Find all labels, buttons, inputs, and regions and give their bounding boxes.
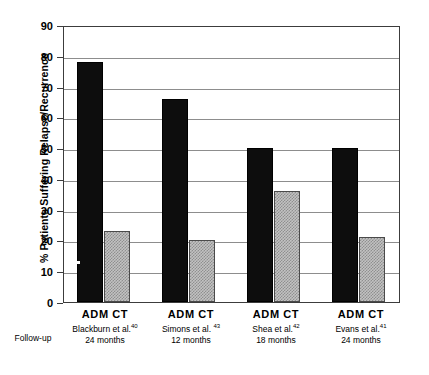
bar-artifact-nick [77, 261, 80, 264]
y-tick-label-50: 50 [0, 143, 53, 155]
bar-ct-evans[interactable] [359, 237, 385, 302]
x-group-study-ref-simons: 43 [213, 323, 220, 329]
x-group-study-ref-evans: 41 [380, 323, 387, 329]
bar-adm-shea[interactable] [247, 148, 273, 302]
bar-adm-evans[interactable] [332, 148, 358, 302]
y-tick-label-10: 10 [0, 266, 53, 278]
y-tick-mark-0 [57, 303, 63, 304]
x-group-study-name-simons: Simons et al. [162, 324, 214, 334]
y-tick-label-80: 80 [0, 51, 53, 63]
plot-inner [64, 27, 399, 302]
x-group-study-name-evans: Evans et al. [335, 324, 379, 334]
y-tick-label-60: 60 [0, 112, 53, 124]
bar-adm-simons[interactable] [162, 99, 188, 302]
x-group-study-name-shea: Shea et al. [252, 324, 293, 334]
bar-ct-simons[interactable] [189, 240, 215, 302]
x-group-study-ref-shea: 42 [293, 323, 300, 329]
x-group-study-name-blackburn: Blackburn et al. [72, 324, 131, 334]
x-group-series-labels-evans: ADM CT [306, 308, 416, 320]
y-tick-label-90: 90 [0, 20, 53, 32]
bar-ct-blackburn[interactable] [104, 231, 130, 302]
y-tick-label-70: 70 [0, 82, 53, 94]
y-tick-label-0: 0 [0, 297, 53, 309]
bar-chart-figure: % Patients Suffering Relapse/Recurrence … [0, 0, 429, 375]
y-tick-label-40: 40 [0, 174, 53, 186]
bar-ct-shea[interactable] [274, 191, 300, 302]
gridline-70 [64, 89, 399, 90]
x-group-study-evans: Evans et al.41 [306, 323, 416, 334]
gridline-60 [64, 119, 399, 120]
plot-area [63, 26, 400, 303]
y-tick-label-30: 30 [0, 205, 53, 217]
x-group-evans: ADM CT Evans et al.41 24 months [306, 308, 416, 345]
y-tick-label-20: 20 [0, 235, 53, 247]
x-group-period-evans: 24 months [306, 335, 416, 345]
y-axis-ticks: 90 80 70 60 50 40 30 20 10 0 [0, 26, 63, 303]
bar-adm-blackburn[interactable] [77, 62, 103, 302]
gridline-80 [64, 58, 399, 59]
